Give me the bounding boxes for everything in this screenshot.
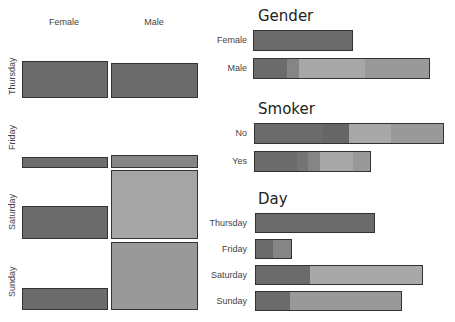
segment — [255, 152, 297, 171]
bar-label-sunday: Sunday — [187, 296, 247, 306]
mosaic-cell-friday-female — [22, 157, 108, 168]
col-label-male: Male — [111, 17, 197, 27]
segment — [308, 152, 320, 171]
segment — [254, 31, 352, 50]
row-label-friday: Friday — [7, 125, 17, 150]
segment — [391, 124, 443, 143]
mosaic-cell-thursday-male — [111, 63, 198, 98]
mosaic-cell-sunday-female — [22, 288, 108, 310]
bar-label-female: Female — [187, 35, 247, 45]
mosaic-cell-thursday-female — [22, 61, 108, 98]
bar-label-yes: Yes — [187, 156, 247, 166]
segment — [320, 152, 353, 171]
row-label-sunday: Sunday — [7, 266, 17, 297]
segment — [256, 214, 374, 232]
bar-no — [254, 123, 444, 144]
row-label-thursday: Thursday — [7, 57, 17, 95]
day-title: Day — [258, 190, 288, 208]
col-label-female: Female — [21, 17, 107, 27]
mosaic-cell-saturday-female — [22, 206, 108, 239]
segment — [310, 266, 422, 284]
bar-male — [253, 58, 430, 79]
bar-thursday — [255, 213, 375, 233]
segment — [353, 152, 370, 171]
segment — [256, 240, 273, 258]
segment — [255, 124, 323, 143]
bar-female — [253, 30, 353, 51]
mosaic-cell-saturday-male — [111, 170, 198, 239]
bar-sunday — [255, 291, 402, 311]
gender-title: Gender — [258, 7, 313, 25]
segment — [299, 59, 365, 78]
bar-label-thursday: Thursday — [187, 218, 247, 228]
segment — [290, 292, 401, 310]
bar-label-male: Male — [187, 63, 247, 73]
row-label-saturday: Saturday — [7, 194, 17, 230]
segment — [273, 240, 291, 258]
mosaic-cell-sunday-male — [111, 242, 198, 310]
segment — [349, 124, 391, 143]
segment — [365, 59, 429, 78]
segment — [297, 152, 308, 171]
segment — [256, 292, 290, 310]
mosaic-cell-friday-male — [111, 155, 198, 168]
bar-yes — [254, 151, 371, 172]
bar-label-no: No — [187, 128, 247, 138]
segment — [323, 124, 349, 143]
bar-label-friday: Friday — [187, 244, 247, 254]
segment — [254, 59, 287, 78]
segment — [256, 266, 310, 284]
bar-friday — [255, 239, 292, 259]
segment — [287, 59, 299, 78]
bar-saturday — [255, 265, 423, 285]
bar-label-saturday: Saturday — [187, 270, 247, 280]
smoker-title: Smoker — [258, 100, 315, 118]
